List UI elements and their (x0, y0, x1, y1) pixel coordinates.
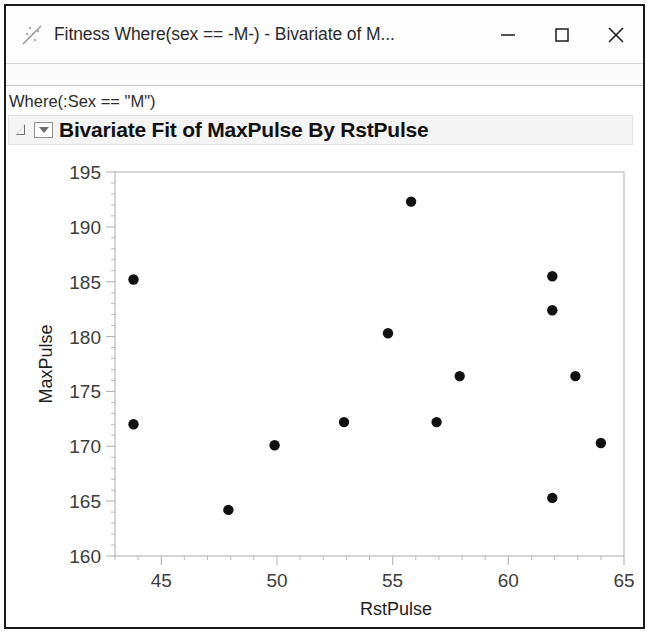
disclosure-triangle-icon[interactable] (14, 122, 30, 138)
y-axis-tick-label: 180 (69, 327, 101, 348)
scatter-point[interactable] (128, 419, 138, 429)
window-toolbar-strip (6, 64, 643, 86)
window-title: Fitness Where(sex == -M-) - Bivariate of… (54, 24, 481, 45)
maximize-button[interactable] (535, 7, 589, 63)
x-axis-tick-label: 60 (498, 570, 519, 591)
red-triangle-menu-icon[interactable] (34, 122, 53, 138)
y-axis-tick-label: 170 (69, 436, 101, 457)
y-axis-title: MaxPulse (36, 324, 56, 403)
scatter-point[interactable] (339, 417, 349, 427)
scatter-point[interactable] (547, 493, 557, 503)
scatter-point[interactable] (547, 271, 557, 281)
scatter-point[interactable] (269, 440, 279, 450)
y-axis-tick-label: 175 (69, 381, 101, 402)
y-axis-ticks (106, 172, 115, 556)
jmp-report-window: Fitness Where(sex == -M-) - Bivariate of… (4, 4, 645, 629)
where-clause-label: Where(:Sex == "M") (6, 87, 643, 115)
close-button[interactable] (589, 7, 643, 63)
x-axis-ticks (115, 556, 624, 565)
x-axis-tick-label: 45 (151, 570, 172, 591)
scatter-point[interactable] (223, 505, 233, 515)
y-axis-tick-label: 160 (69, 546, 101, 567)
x-axis-tick-label: 55 (382, 570, 403, 591)
window-titlebar: Fitness Where(sex == -M-) - Bivariate of… (6, 6, 643, 64)
y-axis-tick-label: 195 (69, 162, 101, 183)
scatter-point[interactable] (570, 371, 580, 381)
scatter-point[interactable] (455, 371, 465, 381)
scatter-point[interactable] (128, 274, 138, 284)
y-axis-tick-label: 165 (69, 491, 101, 512)
x-axis-tick-label: 65 (613, 570, 634, 591)
bivariate-scatterplot[interactable]: 160165170175180185190195 4550556065 MaxP… (6, 145, 645, 627)
scatter-point[interactable] (547, 305, 557, 315)
outline-node-header[interactable]: Bivariate Fit of MaxPulse By RstPulse (8, 115, 633, 145)
y-axis-tick-label: 190 (69, 217, 101, 238)
x-axis-tick-labels: 4550556065 (151, 570, 635, 591)
scatter-point[interactable] (383, 328, 393, 338)
scatter-point[interactable] (406, 196, 416, 206)
minimize-button[interactable] (481, 7, 535, 63)
scatter-point[interactable] (431, 417, 441, 427)
x-axis-tick-label: 50 (266, 570, 287, 591)
jmp-scatterplot-icon (20, 22, 46, 48)
x-axis-title: RstPulse (360, 599, 432, 619)
scatter-point[interactable] (596, 438, 606, 448)
y-axis-tick-labels: 160165170175180185190195 (69, 162, 101, 567)
outline-title: Bivariate Fit of MaxPulse By RstPulse (59, 118, 429, 142)
y-axis-tick-label: 185 (69, 272, 101, 293)
